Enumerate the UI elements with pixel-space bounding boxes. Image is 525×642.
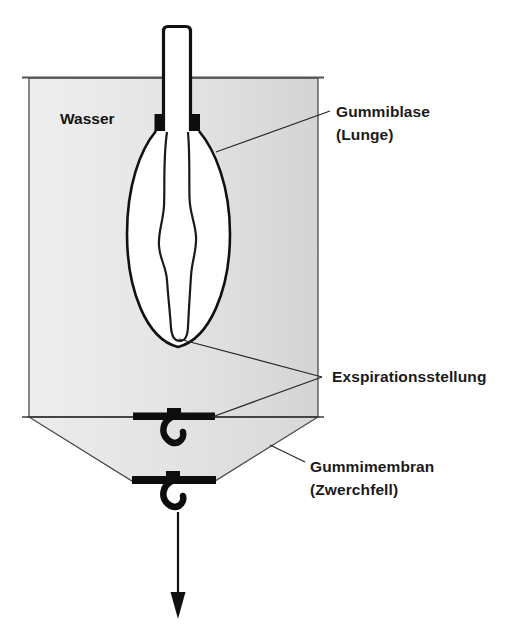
membrane-upper-knob <box>167 408 181 414</box>
pull-arrow-head <box>171 592 186 619</box>
rubber-collar-left <box>155 114 164 132</box>
label-expiration: Exspirationsstellung <box>332 368 486 385</box>
pull-arrow <box>171 512 186 619</box>
respiration-model-figure: Wasser Gummiblase (Lunge) Exspirationsst… <box>0 0 525 642</box>
membrane-lower <box>132 471 216 507</box>
leader-membrane <box>270 445 305 462</box>
rubber-collar-right <box>192 114 201 132</box>
label-balloon-line1: Gummiblase <box>336 103 430 120</box>
label-balloon-line2: (Lunge) <box>336 126 394 143</box>
label-membrane-line2: (Zwerchfell) <box>310 481 398 498</box>
membrane-lower-knob <box>166 471 180 477</box>
label-membrane-line1: Gummimembran <box>310 458 434 475</box>
diagram-canvas: Wasser Gummiblase (Lunge) Exspirationsst… <box>0 0 525 642</box>
label-water: Wasser <box>60 110 115 127</box>
membrane-lower-hook <box>163 481 183 507</box>
